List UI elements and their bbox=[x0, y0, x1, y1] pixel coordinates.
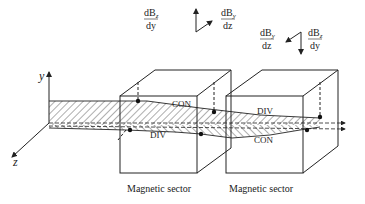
svg-text:dy: dy bbox=[310, 40, 320, 51]
field-gradient-sector1: dBz dy dBy dz bbox=[144, 7, 237, 32]
svg-text:dy: dy bbox=[146, 20, 156, 31]
svg-text:dBz: dBz bbox=[308, 27, 323, 40]
sector1-lower-label: DIV bbox=[150, 130, 166, 140]
gradient-diagonal-arrow-icon bbox=[286, 32, 301, 42]
svg-text:dBy: dBy bbox=[221, 7, 237, 20]
svg-text:dz: dz bbox=[223, 20, 233, 31]
sector2-caption: Magnetic sector bbox=[229, 183, 294, 194]
field-gradient-sector2: dBy dz dBz dy bbox=[260, 27, 323, 54]
gradient-diagonal-arrow-icon bbox=[196, 21, 212, 32]
svg-text:dBz: dBz bbox=[144, 7, 159, 20]
y-axis-label: y bbox=[38, 69, 45, 83]
svg-text:dz: dz bbox=[262, 40, 272, 51]
sector1-upper-label: CON bbox=[172, 99, 192, 109]
sector1-caption: Magnetic sector bbox=[127, 183, 192, 194]
quadrupole-diagram: y z CON DIV DIV CON dBz dy dBy bbox=[0, 0, 365, 204]
coordinate-axes: y z bbox=[12, 69, 49, 169]
sector2-upper-label: DIV bbox=[257, 106, 273, 116]
z-axis-label: z bbox=[12, 155, 18, 169]
svg-text:dBy: dBy bbox=[260, 27, 276, 40]
sector2-lower-label: CON bbox=[254, 135, 274, 145]
diagram-canvas: y z CON DIV DIV CON dBz dy dBy bbox=[0, 0, 365, 204]
z-axis bbox=[12, 123, 49, 157]
